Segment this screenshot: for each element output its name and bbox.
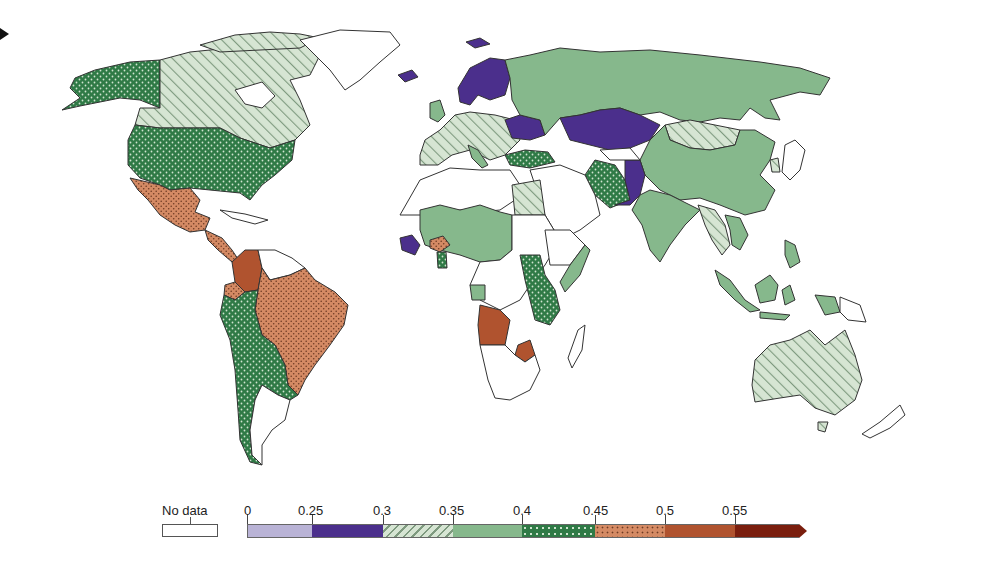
region-angola <box>478 305 510 345</box>
world-choropleth-map <box>0 0 989 480</box>
region-png <box>840 297 866 322</box>
region-tasmania <box>818 422 828 432</box>
legend-swatch-0-0.25 <box>247 524 312 538</box>
region-iceland <box>398 70 418 82</box>
region-argentina <box>250 385 290 465</box>
region-central-asia <box>600 148 640 160</box>
region-central-america <box>205 230 240 262</box>
region-madagascar <box>568 325 585 368</box>
region-uk <box>430 100 445 122</box>
legend <box>0 490 989 550</box>
region-sahel <box>420 205 512 262</box>
region-russia <box>505 48 830 135</box>
region-north-africa <box>400 168 520 215</box>
region-scandinavia <box>458 58 510 105</box>
legend-arrow-icon <box>799 524 807 538</box>
region-guinea <box>400 235 420 255</box>
legend-no-data-label: No data <box>162 503 208 518</box>
region-papua <box>815 295 840 315</box>
legend-swatch-0.5-0.55 <box>665 524 735 538</box>
legend-swatch-0.45-0.5 <box>595 524 665 538</box>
region-borneo <box>755 275 778 303</box>
region-ghana <box>437 252 447 268</box>
region-alaska <box>62 60 160 110</box>
legend-swatch-0.35-0.4 <box>453 524 522 538</box>
region-sumatra <box>715 270 760 312</box>
region-gabon <box>470 285 485 300</box>
legend-swatch-above-0.55 <box>735 524 799 538</box>
region-philippines <box>785 240 800 268</box>
region-india <box>632 190 700 262</box>
legend-no-data-swatch <box>162 524 218 537</box>
region-egypt <box>512 180 545 215</box>
region-korea <box>770 158 780 172</box>
region-java <box>760 312 790 320</box>
region-new-zealand <box>862 405 905 438</box>
legend-tick-label-3: 0.35 <box>439 503 464 518</box>
region-sulawesi <box>782 285 795 305</box>
region-australia <box>752 330 862 415</box>
legend-no-data-tick <box>190 517 191 524</box>
region-turkey <box>505 150 555 168</box>
legend-swatch-0.4-0.45 <box>522 524 595 538</box>
region-japan <box>782 140 805 180</box>
legend-swatch-0.25-0.3 <box>312 524 383 538</box>
legend-tick-label-1: 0.25 <box>298 503 323 518</box>
region-myanmar-thailand <box>698 205 730 255</box>
legend-swatch-0.3-0.35 <box>383 524 453 538</box>
